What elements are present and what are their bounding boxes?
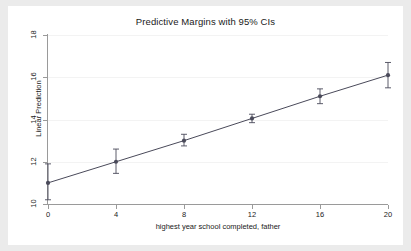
- y-axis-line: [47, 34, 48, 205]
- gridline-y: [48, 77, 388, 78]
- y-axis-title: Linear Prediction: [34, 49, 43, 169]
- chart-figure: Predictive Margins with 95% CIs Linear P…: [0, 0, 411, 251]
- gridline-y: [48, 120, 388, 121]
- y-axis-tick: [43, 120, 47, 121]
- chart-title: Predictive Margins with 95% CIs: [0, 16, 411, 27]
- x-axis-line: [47, 204, 388, 205]
- x-axis-tick: [48, 205, 49, 209]
- gridline-y: [48, 162, 388, 163]
- y-axis-tick: [43, 162, 47, 163]
- x-axis-tick: [116, 205, 117, 209]
- x-axis-tick-label: 16: [308, 210, 332, 219]
- y-axis-tick: [43, 204, 47, 205]
- x-axis-tick-label: 12: [240, 210, 264, 219]
- x-axis-tick: [184, 205, 185, 209]
- gridline-y: [48, 35, 388, 36]
- x-axis-tick: [388, 205, 389, 209]
- x-axis-title: highest year school completed, father: [48, 222, 388, 231]
- y-axis-tick-label: 16: [29, 68, 38, 86]
- x-axis-tick: [320, 205, 321, 209]
- y-axis-tick-label: 18: [29, 26, 38, 44]
- y-axis-tick-label: 12: [29, 152, 38, 170]
- y-axis-tick: [43, 77, 47, 78]
- x-axis-tick-label: 0: [36, 210, 60, 219]
- plot-region: [48, 35, 388, 204]
- x-axis-tick-label: 4: [104, 210, 128, 219]
- y-axis-tick-label: 14: [29, 110, 38, 128]
- x-axis-tick: [252, 205, 253, 209]
- x-axis-tick-label: 8: [172, 210, 196, 219]
- y-axis-tick: [43, 35, 47, 36]
- x-axis-tick-label: 20: [376, 210, 400, 219]
